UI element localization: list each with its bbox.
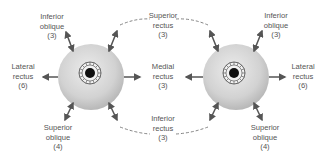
label-nerve-number: (3) — [264, 30, 289, 40]
right-superior-oblique-arrow — [254, 103, 262, 120]
label-line: Superior — [149, 11, 178, 21]
left-superior-rectus-arrow — [109, 31, 117, 51]
label-medial-rectus: Medial rectus (3) — [152, 62, 174, 91]
label-nerve-number: (3) — [152, 81, 174, 91]
label-line: Inferior — [264, 11, 289, 21]
right-inferior-oblique-arrow — [254, 31, 262, 51]
label-nerve-number: (4) — [251, 142, 280, 152]
label-line: Lateral — [291, 62, 314, 72]
label-left-lateral-rectus: Lateral rectus (6) — [11, 62, 34, 91]
right-inferior-rectus-arrow — [210, 103, 218, 120]
label-nerve-number: (3) — [149, 30, 178, 40]
label-line: oblique — [44, 133, 73, 143]
label-line: oblique — [40, 22, 65, 32]
label-line: rectus — [291, 72, 314, 82]
label-right-superior-oblique: Superior oblique (4) — [251, 123, 280, 152]
label-line: Lateral — [11, 62, 34, 72]
label-right-lateral-rectus: Lateral rectus (6) — [291, 62, 314, 91]
left-pupil — [85, 68, 95, 78]
label-nerve-number: (6) — [291, 81, 314, 91]
label-line: rectus — [152, 72, 174, 82]
label-right-inferior-oblique: Inferior oblique (3) — [264, 11, 289, 40]
label-line: oblique — [251, 133, 280, 143]
label-superior-rectus: Superior rectus (3) — [149, 11, 178, 40]
label-left-inferior-oblique: Inferior oblique (3) — [40, 12, 65, 41]
right-iris-icon — [223, 62, 245, 84]
left-superior-oblique-arrow — [65, 103, 73, 120]
right-superior-rectus-arrow — [210, 31, 218, 51]
left-iris-icon — [79, 62, 101, 84]
label-nerve-number: (3) — [40, 31, 65, 41]
label-line: rectus — [149, 21, 178, 31]
right-eyeball — [203, 44, 269, 110]
label-line: Superior — [44, 123, 73, 133]
label-line: Medial — [152, 62, 174, 72]
label-line: Inferior — [151, 114, 175, 124]
left-eyeball — [58, 44, 124, 110]
right-pupil — [229, 68, 239, 78]
label-nerve-number: (4) — [44, 142, 73, 152]
label-line: Superior — [251, 123, 280, 133]
left-inferior-rectus-arrow — [109, 103, 117, 120]
label-nerve-number: (6) — [11, 81, 34, 91]
label-left-superior-oblique: Superior oblique (4) — [44, 123, 73, 152]
left-inferior-oblique-arrow — [66, 32, 73, 51]
label-inferior-rectus: Inferior rectus (3) — [151, 114, 175, 143]
label-line: rectus — [151, 124, 175, 134]
label-line: Inferior — [40, 12, 65, 22]
label-line: oblique — [264, 21, 289, 31]
label-line: rectus — [11, 72, 34, 82]
label-nerve-number: (3) — [151, 133, 175, 143]
